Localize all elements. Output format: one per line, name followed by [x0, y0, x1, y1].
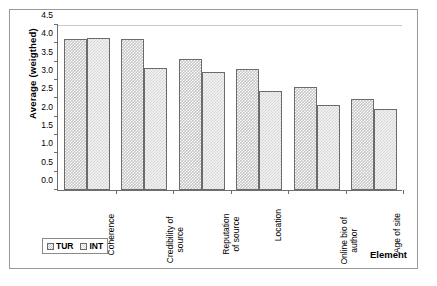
x-axis-category-label: Age of site [393, 213, 403, 253]
y-axis-tick-label: 2.5 [41, 83, 58, 93]
legend-entry[interactable]: INT [80, 241, 103, 251]
chart-frame: Average (weigthed) 0.00.51.01.52.02.53.0… [9, 9, 418, 269]
int-swatch-icon [80, 243, 87, 250]
y-axis-tick-label: 0.0 [41, 175, 58, 185]
bar-tur[interactable] [236, 69, 259, 190]
x-axis-category-labels: CoherenceCredibility ofsourceReputationo… [57, 193, 402, 255]
x-axis-tick-mark [403, 190, 404, 194]
x-axis-category-label: Credibility ofsource [167, 216, 186, 263]
plot-area: 0.00.51.01.52.02.53.03.54.04.5 [57, 25, 402, 191]
bar-int[interactable] [144, 68, 167, 190]
bar-tur[interactable] [64, 39, 87, 190]
legend-entry[interactable]: TUR [47, 241, 73, 251]
bar-group [294, 25, 340, 190]
bar-int[interactable] [202, 72, 225, 190]
y-axis-tick-label: 4.0 [41, 28, 58, 38]
bar-int[interactable] [87, 38, 110, 190]
bar-tur[interactable] [179, 59, 202, 190]
legend-label: TUR [56, 241, 73, 251]
chart-legend: TURINT [42, 238, 108, 254]
bar-group [351, 25, 397, 190]
bar-int[interactable] [259, 91, 282, 190]
bar-int[interactable] [374, 109, 397, 190]
bar-group [64, 25, 110, 190]
y-axis-tick-label: 3.0 [41, 65, 58, 75]
y-axis-tick-label: 0.5 [41, 157, 58, 167]
x-axis-category-label: Online bio ofauthor [340, 217, 359, 265]
y-axis-tick-label: 2.0 [41, 102, 58, 112]
y-axis-tick-label: 4.5 [41, 10, 58, 20]
x-axis-category-label: Location [274, 209, 284, 241]
legend-label: INT [89, 241, 103, 251]
y-axis-title: Average (weigthed) [27, 9, 38, 139]
tur-swatch-icon [47, 243, 54, 250]
bar-group [236, 25, 282, 190]
x-axis-category-label: Reputationof source [221, 214, 240, 255]
y-axis-tick-label: 1.5 [41, 120, 58, 130]
y-axis-tick-label: 3.5 [41, 47, 58, 57]
bar-tur[interactable] [351, 99, 374, 190]
bar-tur[interactable] [121, 39, 144, 190]
x-axis-title: Element [370, 249, 407, 260]
bars-layer [58, 25, 402, 190]
y-axis-tick-label: 1.0 [41, 138, 58, 148]
bar-group [121, 25, 167, 190]
bar-group [179, 25, 225, 190]
bar-int[interactable] [317, 105, 340, 190]
bar-tur[interactable] [294, 87, 317, 190]
